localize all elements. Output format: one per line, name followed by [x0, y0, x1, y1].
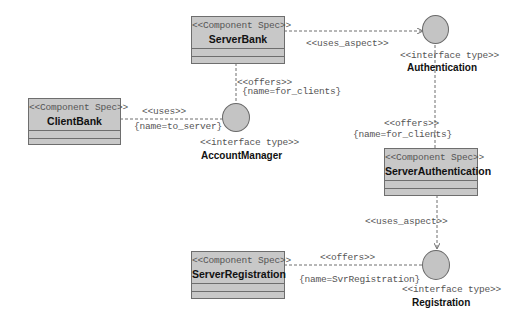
component-stereotype: <<Component Spec>>: [385, 152, 477, 163]
component-serverauthentication[interactable]: <<Component Spec>> ServerAuthentication: [384, 148, 478, 196]
component-serverregistration[interactable]: <<Component Spec>> ServerRegistration: [191, 251, 285, 299]
interface-stereotype: <<interface type>>: [400, 50, 499, 61]
component-compartment: [385, 180, 477, 188]
component-compartment: [192, 283, 284, 291]
component-serverbank[interactable]: <<Component Spec>> ServerBank: [191, 16, 285, 64]
interface-name: AccountManager: [201, 150, 282, 161]
connector-stereotype-label: <<offers>>: [320, 252, 375, 263]
interface-name: Registration: [412, 297, 470, 308]
interface-authentication-icon[interactable]: [422, 15, 449, 44]
connector-stereotype-label: <<offers>>: [384, 118, 439, 129]
interface-accountmanager-icon[interactable]: [222, 103, 250, 132]
connector-stereotype-label: <<uses>>: [142, 106, 186, 117]
connector-constraint-label: {name=to_server}: [134, 121, 222, 132]
connector-constraint-label: {name=for_clients}: [242, 86, 341, 97]
interface-stereotype: <<interface type>>: [200, 137, 299, 148]
component-stereotype: <<Component Spec>>: [192, 20, 284, 31]
component-name: ClientBank: [29, 115, 120, 130]
component-compartment: [385, 188, 477, 196]
component-stereotype: <<Component Spec>>: [29, 102, 120, 113]
interface-name: Authentication: [407, 62, 477, 73]
connector-constraint-label: {name=for_clients}: [353, 129, 452, 140]
connector-constraint-label: {name=SvrRegistration}: [299, 274, 420, 285]
interface-stereotype: <<interface type>>: [402, 284, 501, 295]
component-compartment: [192, 291, 284, 299]
component-compartment: [29, 138, 120, 146]
component-name: ServerRegistration: [192, 268, 284, 283]
component-name: ServerBank: [192, 33, 284, 48]
interface-registration-icon[interactable]: [422, 250, 450, 280]
connector-stereotype-label: <<uses_aspect>>: [306, 38, 389, 49]
component-name: ServerAuthentication: [385, 165, 477, 180]
component-compartment: [192, 48, 284, 56]
connector-stereotype-label: <<uses_aspect>>: [365, 216, 448, 227]
component-compartment: [29, 130, 120, 138]
component-clientbank[interactable]: <<Component Spec>> ClientBank: [28, 98, 121, 145]
component-stereotype: <<Component Spec>>: [192, 255, 284, 266]
diagram-canvas: <<Component Spec>> ServerBank <<Componen…: [0, 0, 520, 324]
component-compartment: [192, 56, 284, 64]
